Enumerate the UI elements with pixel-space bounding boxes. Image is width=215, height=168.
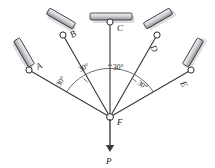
- member-EF: [110, 70, 191, 117]
- truss-members: [29, 22, 191, 117]
- diagram-canvas: A B C D E F P 30° 30° 30° 30°: [0, 0, 215, 168]
- label-E: E: [178, 78, 190, 89]
- pin-D: [154, 32, 160, 38]
- pin-B: [60, 32, 66, 38]
- label-P: P: [105, 156, 112, 166]
- label-F: F: [116, 117, 123, 127]
- label-A: A: [33, 60, 44, 72]
- member-AF: [29, 70, 110, 117]
- label-D: D: [148, 42, 161, 54]
- label-B: B: [68, 28, 78, 40]
- statics-diagram: A B C D E F P 30° 30° 30° 30°: [0, 0, 215, 168]
- pin-A: [26, 67, 32, 73]
- angle-label-4: 30°: [136, 78, 150, 91]
- pin-E: [188, 67, 194, 73]
- label-C: C: [117, 23, 124, 33]
- member-BF: [63, 35, 110, 117]
- pin-C: [107, 19, 113, 25]
- supports: [13, 8, 203, 67]
- angle-label-3: 30°: [113, 63, 124, 72]
